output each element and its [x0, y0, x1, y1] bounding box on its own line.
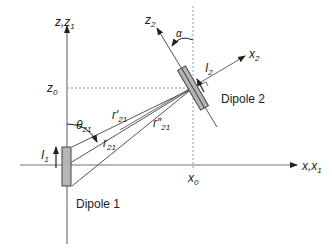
alpha-label: α	[176, 28, 182, 39]
r21-double-prime-line	[72, 88, 193, 186]
x0-label: x0	[187, 171, 199, 187]
current-i1-label: I1	[41, 148, 49, 164]
dipole-diagram: z,z1 x,x1 z0 x0 z2 x2 α I1 I2 Dipole 1 D…	[0, 0, 332, 248]
r21-label: r21	[103, 136, 116, 152]
dipole-1-rod	[62, 147, 71, 186]
r21-prime-line	[72, 88, 193, 147]
current-i2-label: I2	[205, 61, 213, 77]
z2-axis-label: z2	[144, 13, 156, 29]
x2-axis-label: x2	[248, 47, 260, 63]
dipole-1-label: Dipole 1	[76, 197, 120, 211]
r21-prime-label: r′21	[112, 108, 127, 124]
x-axis-label: x,x1	[301, 159, 322, 175]
z-axis-label: z,z1	[54, 15, 75, 31]
alpha-arc	[172, 38, 193, 46]
theta21-label: θ21	[76, 118, 91, 134]
dipole-2-label: Dipole 2	[221, 92, 265, 106]
r21-double-prime-label: r″21	[153, 116, 170, 132]
z0-label: z0	[46, 81, 58, 97]
right-angle-mark	[201, 82, 208, 86]
